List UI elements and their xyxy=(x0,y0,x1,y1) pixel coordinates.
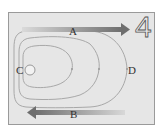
label-b: B xyxy=(70,108,77,120)
flow-diagram: A B C D 4 xyxy=(0,0,163,133)
panel-number: 4 xyxy=(135,10,152,43)
center-circle xyxy=(25,65,35,75)
label-a: A xyxy=(69,25,77,37)
label-d: D xyxy=(128,64,136,76)
label-c: C xyxy=(16,64,23,76)
